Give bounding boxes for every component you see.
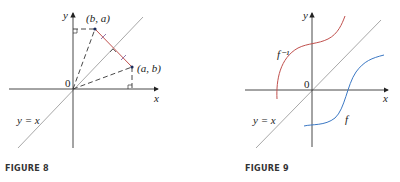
figure-8: y x 0 (b, a) (a, b) y = x: [9, 9, 161, 148]
x-axis-label: x: [382, 92, 388, 104]
inverse-function-label: f⁻¹: [277, 48, 289, 60]
function-label: f: [345, 113, 350, 125]
figures-canvas: y x 0 (b, a) (a, b) y = x y x 0 f⁻¹ f y …: [0, 0, 400, 182]
point-a-b-label: (a, b): [137, 62, 161, 75]
x-axis-label: x: [153, 92, 159, 104]
figure-9: y x 0 f⁻¹ f y = x: [245, 9, 388, 148]
point-a-b: [130, 65, 133, 68]
y-axis-label: y: [62, 9, 68, 21]
tick-marks: [101, 34, 126, 60]
function-curve: [304, 55, 384, 126]
origin-label: 0: [304, 78, 310, 90]
origin-label: 0: [65, 77, 71, 89]
point-b-a-label: (b, a): [86, 12, 110, 25]
y-equals-x-label: y = x: [16, 114, 40, 126]
figure-8-caption: FIGURE 8: [5, 162, 49, 173]
y-equals-x-line: [18, 17, 143, 148]
y-axis-label: y: [302, 9, 308, 21]
figure-9-caption: FIGURE 9: [245, 162, 289, 173]
point-b-a: [93, 27, 96, 30]
y-equals-x-line: [256, 20, 381, 148]
y-equals-x-label: y = x: [252, 114, 276, 126]
